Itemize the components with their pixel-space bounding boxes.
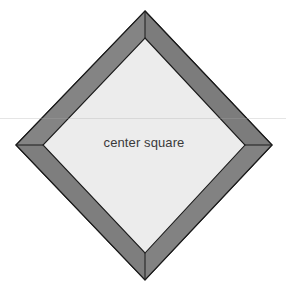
- center-square-label: center square: [104, 135, 185, 150]
- center-square-diagram: center square: [0, 0, 286, 292]
- figure-canvas: center square: [0, 0, 286, 292]
